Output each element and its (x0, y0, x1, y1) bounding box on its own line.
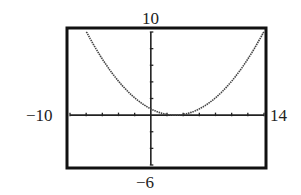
ymin-label: −6 (136, 174, 154, 191)
parabola-curve (86, 32, 264, 115)
window-frame (67, 28, 266, 168)
xmin-label: −10 (26, 107, 53, 124)
ymax-label: 10 (142, 10, 159, 27)
xmax-label: 14 (270, 107, 287, 124)
axes (70, 32, 264, 165)
graph-window (0, 0, 301, 195)
